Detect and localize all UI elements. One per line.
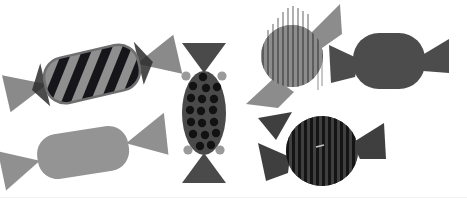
wrapper-twist-right — [122, 113, 170, 161]
candy-vertical-stripes-light[interactable] — [246, 4, 342, 108]
bottom-edge-line — [0, 197, 467, 198]
wrapper-accent-dot — [215, 145, 224, 154]
candy-body — [34, 123, 132, 182]
wrapper-bowtie-left — [258, 143, 290, 181]
candy-striped-diagonal[interactable] — [0, 15, 187, 133]
candy-plain-dark[interactable] — [329, 33, 449, 89]
wrapper-accent-dot — [217, 71, 226, 80]
candy-plain-light[interactable] — [0, 113, 172, 191]
candy-body — [353, 33, 425, 89]
wrapper-stray-triangle — [258, 112, 292, 140]
wrapper-twist-left — [0, 145, 44, 191]
candy-scene-svg: Assorted wrapped candies illustration — [0, 0, 467, 204]
wrapper-bowtie-bottom — [182, 153, 226, 183]
wrapper-accent-dot — [181, 71, 190, 80]
candy-polka-dot[interactable] — [181, 43, 226, 183]
wrapper-accent-dot — [183, 145, 192, 154]
candy-illustration-canvas: Assorted wrapped candies illustration — [0, 0, 467, 204]
wrapper-bowtie-top — [182, 43, 226, 73]
candy-pattern-vertical-stripes — [282, 111, 362, 191]
